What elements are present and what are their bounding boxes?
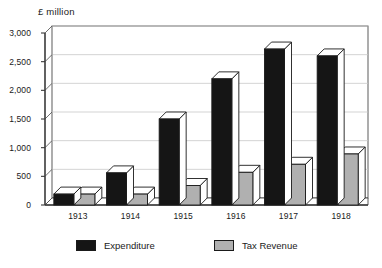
bar-expenditure — [212, 72, 239, 205]
axis-depth-connector — [45, 141, 52, 148]
bar-expenditure — [159, 112, 186, 205]
x-axis-tick-label-1918: 1918 — [332, 211, 351, 221]
plot-area — [0, 0, 382, 268]
bar-expenditure — [317, 49, 344, 205]
legend-swatch-icon — [76, 240, 96, 251]
bar-chart: £ million 05001,0001,5002,0002,5003,000 … — [0, 0, 382, 268]
x-axis-tick-label-1914: 1914 — [121, 211, 140, 221]
axis-depth-connector — [45, 55, 52, 62]
legend-swatch-icon — [214, 240, 234, 251]
x-axis-tick-label-1913: 1913 — [68, 211, 87, 221]
x-axis-tick-label-1916: 1916 — [226, 211, 245, 221]
axis-depth-connector — [45, 169, 52, 176]
axis-depth-connector — [45, 83, 52, 90]
axis-depth-connector — [45, 26, 52, 33]
chart-legend: ExpenditureTax Revenue — [0, 240, 382, 260]
legend-label: Tax Revenue — [242, 240, 297, 251]
x-axis-tick-label-1915: 1915 — [174, 211, 193, 221]
x-axis-tick-label-1917: 1917 — [279, 211, 298, 221]
legend-label: Expenditure — [104, 240, 155, 251]
axis-depth-connector — [45, 112, 52, 119]
legend-item-expenditure[interactable]: Expenditure — [76, 240, 155, 251]
bar-expenditure — [107, 166, 134, 205]
legend-item-tax-revenue[interactable]: Tax Revenue — [214, 240, 297, 251]
bar-expenditure — [265, 42, 292, 205]
bar-expenditure — [54, 187, 81, 205]
